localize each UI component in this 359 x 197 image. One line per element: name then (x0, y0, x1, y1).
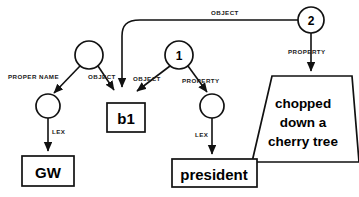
edge-label-object-top: OBJECT (211, 9, 239, 16)
semantic-network-diagram: 1 2 b1 GW president chopped down a cherr… (0, 0, 359, 197)
edge-label-property-right: PROPERTY (288, 48, 326, 55)
edge-label-object-mid: OBJECT (133, 75, 161, 82)
node-one-label: 1 (176, 49, 183, 63)
node-gw-label: GW (35, 164, 62, 181)
edge-label-lex-left: LEX (52, 128, 66, 135)
node-two-label: 2 (308, 14, 315, 28)
node-proper-name-circle (36, 94, 60, 118)
edge-label-property-mid: PROPERTY (182, 77, 220, 84)
node-property-circle (200, 94, 224, 118)
edge-label-proper-name: PROPER NAME (8, 73, 59, 80)
node-chopped-line-3: cherry tree (268, 134, 338, 149)
edge-label-object-left: OBJECT (88, 73, 116, 80)
node-b1-label: b1 (117, 110, 135, 127)
node-root-circle (75, 41, 103, 69)
node-chopped-line-1: chopped (275, 96, 331, 111)
node-president-label: president (180, 166, 248, 183)
node-chopped-line-2: down a (280, 115, 327, 130)
edge-label-lex-right: LEX (195, 131, 209, 138)
diagram-canvas: 1 2 b1 GW president chopped down a cherr… (0, 0, 359, 197)
